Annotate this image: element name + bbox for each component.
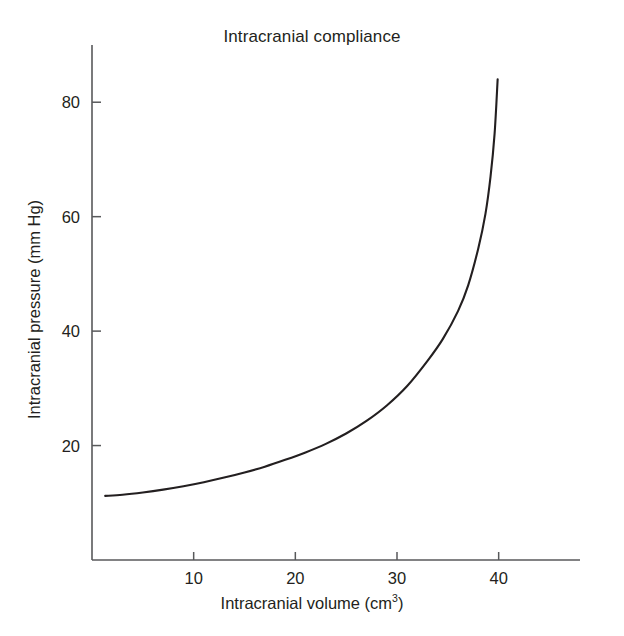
y-axis-tick-label: 40 [62, 322, 80, 340]
x-axis-ticks: 10203040 [184, 552, 507, 587]
x-axis-tick-label: 20 [286, 569, 304, 587]
plot-canvas: 10203040 20406080 [0, 0, 624, 636]
y-axis-tick-label: 60 [62, 208, 80, 226]
x-axis-tick-label: 30 [388, 569, 406, 587]
chart-figure: Intracranial compliance Intracranial pre… [0, 0, 624, 636]
axes [92, 45, 580, 560]
x-axis-tick-label: 10 [184, 569, 202, 587]
y-axis-ticks: 20406080 [62, 93, 101, 454]
compliance-curve [105, 79, 497, 496]
y-axis-tick-label: 20 [62, 437, 80, 455]
x-axis-tick-label: 40 [489, 569, 507, 587]
data-series [105, 79, 497, 496]
y-axis-tick-label: 80 [62, 93, 80, 111]
